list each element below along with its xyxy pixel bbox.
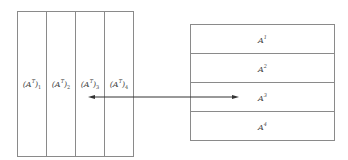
double-arrow (0, 0, 348, 160)
arrowhead-left-icon (88, 95, 95, 99)
arrowhead-right-icon (232, 95, 239, 99)
